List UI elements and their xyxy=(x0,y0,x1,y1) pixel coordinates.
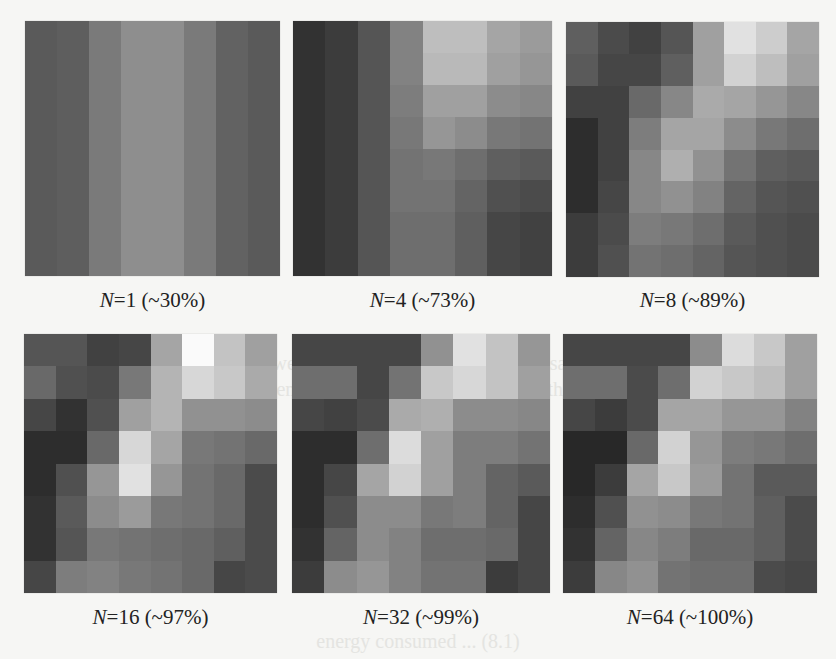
heatmap-cell xyxy=(756,181,788,213)
heatmap-cell xyxy=(693,181,725,213)
heatmap-cell xyxy=(121,53,153,85)
heatmap-cell xyxy=(455,85,487,117)
heatmap-cell xyxy=(722,431,754,463)
heatmap-cell xyxy=(724,150,756,182)
heatmap-cell xyxy=(421,496,453,528)
heatmap-cell xyxy=(722,496,754,528)
heatmap-cell xyxy=(390,53,422,85)
heatmap-cell xyxy=(754,366,786,398)
caption-eq: = xyxy=(384,288,396,312)
heatmap-cell xyxy=(487,21,519,53)
heatmap-cell xyxy=(358,149,390,181)
heatmap-cell xyxy=(423,149,455,181)
heatmap-cell xyxy=(292,496,324,528)
heatmap-cell xyxy=(754,528,786,560)
caption-n-value: 64 xyxy=(653,605,674,629)
heatmap-cell xyxy=(390,85,422,117)
heatmap-cell xyxy=(724,245,756,277)
heatmap-cell xyxy=(324,399,356,431)
heatmap-cell xyxy=(216,85,248,117)
heatmap-cell xyxy=(787,245,819,277)
heatmap-cell xyxy=(292,366,324,398)
heatmap-cell xyxy=(24,431,56,463)
heatmap-cell xyxy=(325,21,357,53)
heatmap-cell xyxy=(216,180,248,212)
heatmap-cell xyxy=(390,149,422,181)
heatmap-cell xyxy=(455,244,487,276)
heatmap-cell xyxy=(358,180,390,212)
heatmap-cell xyxy=(754,399,786,431)
heatmap-cell xyxy=(754,431,786,463)
heatmap-cell xyxy=(24,496,56,528)
heatmap-cell xyxy=(248,244,280,276)
heatmap-cell xyxy=(151,431,183,463)
heatmap-cell xyxy=(119,399,151,431)
heatmap-cell xyxy=(357,399,389,431)
heatmap-cell xyxy=(658,366,690,398)
heatmap-cell xyxy=(56,496,88,528)
heatmap-cell xyxy=(722,399,754,431)
heatmap-cell xyxy=(756,245,788,277)
heatmap-cell xyxy=(453,464,485,496)
heatmap-cell xyxy=(389,366,421,398)
heatmap-cell xyxy=(87,561,119,593)
heatmap-cell xyxy=(56,464,88,496)
heatmap-cell xyxy=(785,366,817,398)
caption-n-symbol: N xyxy=(363,605,377,629)
heatmap-cell xyxy=(486,334,518,366)
heatmap-cell xyxy=(325,149,357,181)
heatmap-cell xyxy=(245,528,277,560)
heatmap-cell xyxy=(182,528,214,560)
heatmap-cell xyxy=(563,399,595,431)
heatmap-cell xyxy=(151,334,183,366)
heatmap-cell xyxy=(214,561,246,593)
heatmap-cell xyxy=(25,149,57,181)
heatmap-cell xyxy=(453,334,485,366)
heatmap-cell xyxy=(629,22,661,54)
heatmap-cell xyxy=(87,334,119,366)
heatmap-cell xyxy=(25,53,57,85)
heatmap-panel-n32 xyxy=(292,334,550,593)
heatmap-cell xyxy=(563,334,595,366)
heatmap-cell xyxy=(89,180,121,212)
caption-n32: N=32 (~99%) xyxy=(292,607,550,628)
heatmap-cell xyxy=(486,528,518,560)
caption-eq: = xyxy=(641,605,653,629)
heatmap-cell xyxy=(520,149,552,181)
heatmap-cell xyxy=(153,117,185,149)
heatmap-cell xyxy=(421,561,453,593)
heatmap-cell xyxy=(245,561,277,593)
heatmap-cell xyxy=(563,496,595,528)
heatmap-cell xyxy=(595,528,627,560)
caption-n8: N=8 (~89%) xyxy=(566,290,819,311)
heatmap-cell xyxy=(121,180,153,212)
heatmap-cell xyxy=(57,212,89,244)
heatmap-cell xyxy=(627,334,659,366)
caption-n-symbol: N xyxy=(640,288,654,312)
heatmap-cell xyxy=(293,21,325,53)
heatmap-cell xyxy=(658,496,690,528)
heatmap-cell xyxy=(629,150,661,182)
caption-n-symbol: N xyxy=(93,605,107,629)
heatmap-cell xyxy=(324,334,356,366)
heatmap-cell xyxy=(693,245,725,277)
heatmap-cell xyxy=(121,149,153,181)
heatmap-cell xyxy=(520,85,552,117)
heatmap-cell xyxy=(421,366,453,398)
heatmap-cell xyxy=(722,528,754,560)
heatmap-cell xyxy=(184,149,216,181)
heatmap-cell xyxy=(89,117,121,149)
heatmap-cell xyxy=(693,86,725,118)
heatmap-cell xyxy=(566,54,598,86)
heatmap-cell xyxy=(423,212,455,244)
heatmap-cell xyxy=(56,528,88,560)
heatmap-cell xyxy=(693,150,725,182)
heatmap-cell xyxy=(56,431,88,463)
heatmap-cell xyxy=(566,213,598,245)
heatmap-cell xyxy=(245,496,277,528)
heatmap-cell xyxy=(658,399,690,431)
heatmap-cell xyxy=(324,464,356,496)
heatmap-cell xyxy=(119,561,151,593)
caption-percent: (~99%) xyxy=(415,605,479,629)
heatmap-cell xyxy=(421,528,453,560)
